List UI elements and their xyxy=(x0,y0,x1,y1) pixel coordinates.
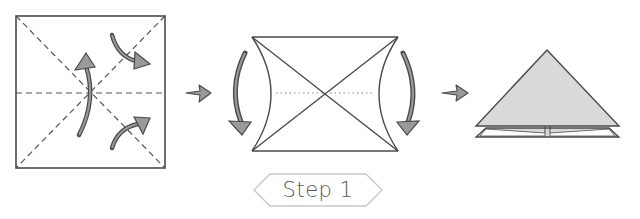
panel-1-square-with-creases xyxy=(16,16,165,168)
next-arrow-icon xyxy=(186,85,211,102)
curved-arrow-down-left-icon xyxy=(229,53,251,135)
main-triangle xyxy=(476,50,619,126)
curved-arrow-down-right-icon xyxy=(397,53,419,135)
left-concave-edge xyxy=(252,37,271,151)
panel-3-folded-triangle xyxy=(476,50,619,137)
panel-2-collapsing-square xyxy=(229,37,419,151)
right-concave-edge xyxy=(379,37,398,151)
step-label: Step 1 xyxy=(254,172,382,208)
next-arrow-icon xyxy=(442,85,468,101)
